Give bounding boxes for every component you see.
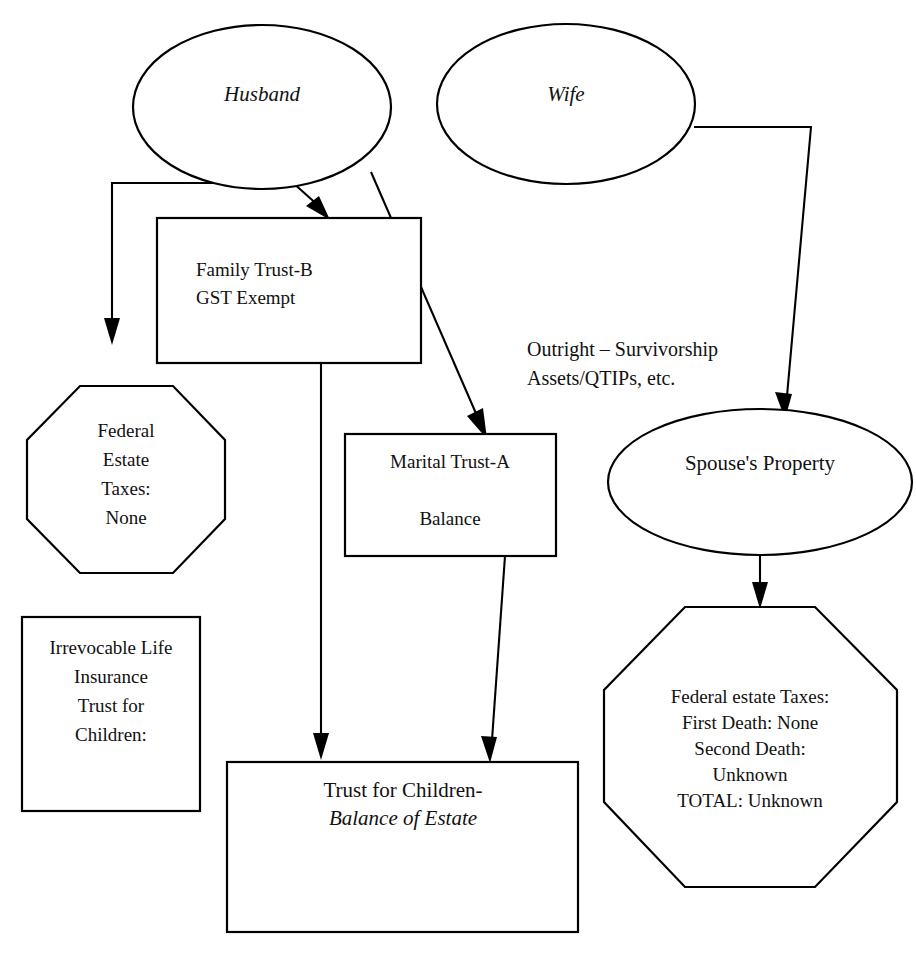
node-ilit-line2: Insurance [74,666,148,687]
connector-family-trust-to-children-trust [313,363,329,760]
node-left-octagon[interactable]: Federal Estate Taxes: None [27,386,225,573]
node-husband-label: Husband [223,82,300,106]
node-ilit-line1: Irrevocable Life [50,637,173,658]
node-children-trust-line1: Trust for Children- [323,778,482,802]
node-left-octagon-line3: Taxes: [101,478,150,499]
node-family-trust-line2: GST Exempt [196,287,296,308]
node-right-octagon-line2: First Death: None [682,712,818,733]
node-left-octagon-line2: Estate [103,449,149,470]
connector-husband-to-family-trust [292,182,330,220]
node-ilit-line4: Children: [75,724,147,745]
node-wife[interactable]: Wife [437,24,695,184]
node-right-octagon[interactable]: Federal estate Taxes: First Death: None … [604,607,897,887]
node-ilit-box[interactable]: Irrevocable Life Insurance Trust for Chi… [22,617,200,811]
annotation-outright-line2: Assets/QTIPs, etc. [527,367,675,389]
node-family-trust-line1: Family Trust-B [196,259,313,280]
node-children-trust-line2: Balance of Estate [329,806,477,830]
node-right-octagon-line1: Federal estate Taxes: [671,686,830,707]
connector-marital-trust-to-children-trust [481,556,505,763]
node-right-octagon-line5: TOTAL: Unknown [677,790,823,811]
node-children-trust[interactable]: Trust for Children- Balance of Estate [227,762,578,932]
flowchart-canvas: Husband Wife Family Trust-B GST Exempt F… [0,0,916,953]
node-ilit-line3: Trust for [78,695,145,716]
estate-planning-flowchart: Husband Wife Family Trust-B GST Exempt F… [0,0,916,953]
connector-wife-to-spouse-property [694,127,811,419]
node-wife-label: Wife [547,82,584,106]
node-left-octagon-line1: Federal [98,420,155,441]
node-left-octagon-line4: None [105,507,146,528]
node-right-octagon-line3: Second Death: [694,738,805,759]
annotation-outright-line1: Outright – Survivorship [527,338,718,361]
annotation-outright-note: Outright – Survivorship Assets/QTIPs, et… [527,338,718,389]
node-marital-trust[interactable]: Marital Trust-A Balance [345,434,556,556]
node-marital-trust-line2: Balance [419,508,480,529]
connector-spouse-property-to-right-octagon [752,556,768,609]
node-family-trust[interactable]: Family Trust-B GST Exempt [157,218,421,363]
node-right-octagon-line4: Unknown [713,764,788,785]
node-marital-trust-line1: Marital Trust-A [390,451,510,472]
node-spouse-property-label: Spouse's Property [685,451,836,475]
node-husband[interactable]: Husband [133,25,391,189]
node-spouse-property[interactable]: Spouse's Property [608,409,912,555]
